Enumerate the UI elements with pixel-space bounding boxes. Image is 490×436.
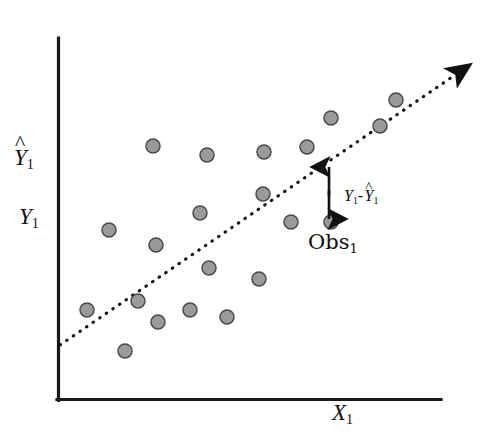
data-point (202, 261, 216, 275)
data-point (131, 294, 145, 308)
data-point (183, 303, 197, 317)
data-point (284, 215, 298, 229)
y-hat-subscript: 1 (27, 156, 34, 172)
data-point (257, 145, 271, 159)
x-axis-label: X1 (332, 401, 353, 426)
y-axis-label: Y1 (19, 205, 39, 230)
regression-line-group (60, 75, 455, 345)
data-point (300, 140, 314, 154)
residual-trail-subscript: 1 (373, 195, 378, 206)
hat-icon: ^ (365, 179, 372, 194)
axes-group (57, 38, 441, 401)
scatter-points-group (80, 93, 403, 358)
obs-text: Obs (308, 230, 349, 254)
data-point (256, 187, 270, 201)
data-point (252, 272, 266, 286)
y-hat-axis-label: ^Y1 (14, 146, 34, 171)
plot-canvas (0, 0, 490, 436)
regression-scatter-figure: ^Y1 Y1 X1 Y1- ^Y1 Obs1 (0, 0, 490, 436)
data-point (146, 139, 160, 153)
highlighted-observation-point (324, 215, 338, 229)
y-letter: Y (19, 204, 32, 229)
residual-operator: - (358, 187, 363, 204)
observation-label: Obs1 (308, 232, 358, 255)
hat-icon: ^ (15, 133, 25, 155)
data-point (324, 111, 338, 125)
x-subscript: 1 (346, 411, 353, 427)
data-point (80, 303, 94, 317)
data-point (151, 315, 165, 329)
data-point (193, 206, 207, 220)
data-point (220, 310, 234, 324)
data-point (149, 238, 163, 252)
regression-fit-line (60, 75, 455, 345)
obs-subscript: 1 (349, 241, 357, 256)
data-point (373, 119, 387, 133)
x-letter: X (332, 400, 346, 425)
data-point (102, 223, 116, 237)
residual-annotation-label: Y1- ^Y1 (344, 188, 378, 206)
data-point (200, 148, 214, 162)
y-subscript: 1 (32, 215, 39, 231)
residual-lead-letter: Y (344, 187, 353, 204)
data-point (389, 93, 403, 107)
data-point (118, 344, 132, 358)
